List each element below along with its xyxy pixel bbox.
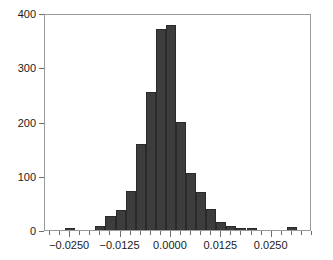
x-axis-minor-tick-mark	[130, 231, 131, 235]
plot-frame	[44, 14, 311, 231]
x-axis-minor-tick-mark	[251, 231, 252, 235]
x-axis-major-tick-mark	[69, 231, 70, 237]
x-axis-minor-tick-mark	[210, 231, 211, 235]
histogram-bar	[136, 144, 146, 230]
x-axis-minor-tick-mark	[200, 231, 201, 235]
x-axis-minor-tick-mark	[291, 231, 292, 235]
x-axis-minor-tick-mark	[230, 231, 231, 235]
x-axis-minor-tick-mark	[99, 231, 100, 235]
x-axis-major-tick-mark	[271, 231, 272, 237]
x-axis-minor-tick-mark	[140, 231, 141, 235]
histogram-bar	[156, 29, 166, 230]
histogram-bar	[196, 192, 206, 230]
x-axis-major-tick-mark	[170, 231, 171, 237]
x-axis-minor-tick-mark	[150, 231, 151, 235]
x-axis-minor-tick-mark	[261, 231, 262, 235]
y-axis: 0100200300400	[0, 0, 44, 232]
x-axis: −0.0250−0.01250.00000.01250.0250	[44, 231, 312, 260]
x-axis-major-tick-mark	[220, 231, 221, 237]
histogram-bar	[146, 92, 156, 230]
x-axis-major-tick-mark	[120, 231, 121, 237]
histogram-bar	[186, 173, 196, 231]
histogram-bar	[216, 222, 226, 230]
histogram-bar	[105, 216, 115, 230]
histogram-bar	[166, 25, 176, 230]
histogram-bar	[287, 227, 297, 230]
histogram-bar	[206, 209, 216, 230]
x-axis-minor-tick-mark	[59, 231, 60, 235]
x-axis-tick-label: −0.0125	[100, 239, 140, 251]
x-axis-minor-tick-mark	[281, 231, 282, 235]
y-axis-tick-label: 0	[30, 226, 36, 237]
y-axis-tick-label: 300	[18, 63, 36, 74]
x-axis-minor-tick-mark	[301, 231, 302, 235]
x-axis-tick-label: 0.0250	[254, 239, 288, 251]
x-axis-minor-tick-mark	[109, 231, 110, 235]
x-axis-minor-tick-mark	[89, 231, 90, 235]
plot-area	[45, 15, 310, 230]
x-axis-minor-tick-mark	[190, 231, 191, 235]
histogram-figure: 0100200300400 −0.0250−0.01250.00000.0125…	[0, 0, 333, 260]
x-axis-minor-tick-mark	[49, 231, 50, 235]
x-axis-tick-label: −0.0250	[49, 239, 89, 251]
histogram-bar	[126, 191, 136, 230]
y-axis-tick-label: 400	[18, 9, 36, 20]
x-axis-tick-label: 0.0125	[203, 239, 237, 251]
x-axis-minor-tick-mark	[240, 231, 241, 235]
histogram-bar	[226, 226, 236, 230]
histogram-bar	[116, 210, 126, 230]
x-axis-minor-tick-mark	[79, 231, 80, 235]
histogram-bar	[65, 228, 75, 230]
x-axis-minor-tick-mark	[311, 231, 312, 235]
x-axis-tick-label: 0.0000	[153, 239, 187, 251]
histogram-bar	[95, 226, 105, 230]
histogram-bar	[247, 228, 257, 230]
y-axis-tick-label: 200	[18, 117, 36, 128]
histogram-bar	[176, 122, 186, 231]
y-axis-tick-label: 100	[18, 171, 36, 182]
histogram-bar	[236, 228, 246, 230]
x-axis-minor-tick-mark	[180, 231, 181, 235]
x-axis-minor-tick-mark	[160, 231, 161, 235]
